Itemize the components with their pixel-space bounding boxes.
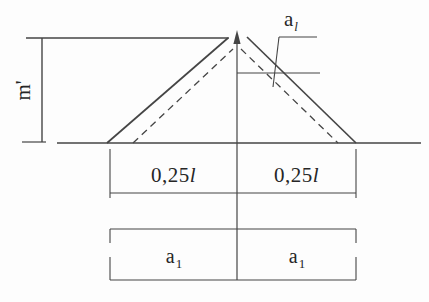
- bar-left-subscript: 1: [176, 256, 183, 271]
- span-left-label: 0,25l: [110, 165, 237, 186]
- span-right-unit: l: [313, 163, 319, 187]
- span-right-label: 0,25l: [237, 165, 356, 186]
- envelope-right-solid-line: [247, 37, 356, 143]
- bar-right-label: a1: [237, 246, 356, 266]
- moment-left-dashed-line: [133, 49, 233, 143]
- moment-right-dashed-line: [241, 49, 338, 143]
- shift-distance-subscript: l: [294, 19, 298, 34]
- bar-left-label: a1: [110, 246, 237, 266]
- span-right-value: 0,25: [274, 163, 313, 187]
- span-left-unit: l: [190, 163, 196, 187]
- shift-distance-base: a: [284, 7, 293, 31]
- bar-left-base: a: [166, 245, 175, 267]
- shift-distance-label: al: [284, 9, 297, 30]
- center-axis-arrowhead-icon: [233, 30, 240, 44]
- span-left-value: 0,25: [151, 163, 190, 187]
- moment-shift-diagram: m' al 0,25l 0,25l a1 a1: [0, 0, 429, 302]
- moment-ordinate-label: m': [13, 80, 34, 100]
- bar-right-subscript: 1: [299, 256, 306, 271]
- bar-right-base: a: [289, 245, 298, 267]
- envelope-left-solid-line: [107, 38, 228, 143]
